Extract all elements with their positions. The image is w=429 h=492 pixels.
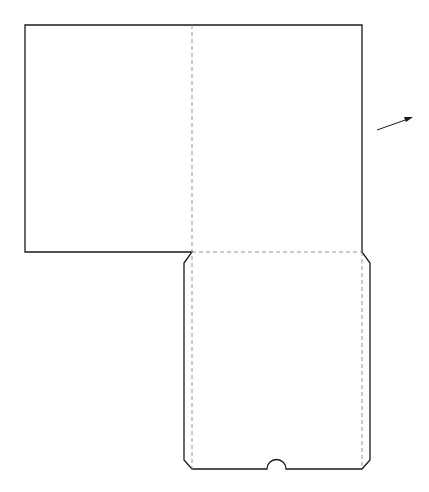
direction-arrow-icon (377, 117, 413, 130)
cut-outline (25, 25, 370, 469)
die-cut-template (0, 0, 429, 492)
